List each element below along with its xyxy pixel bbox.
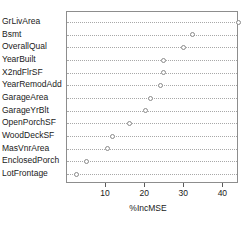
data-points (67, 12, 237, 182)
x-axis-title: %IncMSE (0, 203, 248, 213)
x-tick-label: 10 (100, 188, 109, 198)
data-point-lotfrontage (74, 172, 79, 177)
y-axis-label-masvnrarea: MasVnrArea (0, 143, 62, 152)
x-tick-label: 40 (218, 188, 227, 198)
y-axis-label-yearremodadd: YearRemodAdd (0, 80, 62, 89)
y-axis-label-garageyrblt: GarageYrBlt (0, 105, 62, 114)
data-point-grlivarea (236, 20, 241, 25)
y-axis-label-lotfrontage: LotFrontage (0, 169, 62, 178)
x-tick-mark (222, 183, 223, 187)
x-tick-mark (144, 183, 145, 187)
plot-area (66, 11, 238, 183)
x-tick-mark (183, 183, 184, 187)
x-tick-label: 30 (179, 188, 188, 198)
x-axis: 10203040 (66, 183, 238, 203)
y-axis-label-garagearea: GarageArea (0, 93, 62, 102)
variable-importance-plot: GrLivAreaBsmtOverallQualYearBuiltX2ndFlr… (0, 0, 248, 230)
data-point-x2ndflrsf (161, 70, 166, 75)
y-axis-label-wooddecksf: WoodDeckSF (0, 131, 62, 140)
data-point-enclosedporch (84, 159, 89, 164)
y-axis-label-bsmt: Bsmt (0, 29, 62, 38)
y-axis-label-x2ndflrsf: X2ndFlrSF (0, 67, 62, 76)
x-tick-label: 20 (139, 188, 148, 198)
y-axis-label-openporchsf: OpenPorchSF (0, 118, 62, 127)
data-point-garageyrblt (143, 108, 148, 113)
bottom-caption-clipped (0, 222, 248, 230)
data-point-masvnrarea (105, 146, 110, 151)
y-axis-label-enclosedporch: EnclosedPorch (0, 156, 62, 165)
data-point-bsmt (190, 32, 195, 37)
data-point-yearbuilt (161, 58, 166, 63)
data-point-wooddecksf (110, 134, 115, 139)
x-tick-mark (105, 183, 106, 187)
data-point-overallqual (181, 45, 186, 50)
data-point-garagearea (148, 96, 153, 101)
data-point-yearremodadd (158, 83, 163, 88)
y-axis-label-overallqual: OverallQual (0, 42, 62, 51)
data-point-openporchsf (127, 121, 132, 126)
y-axis-label-yearbuilt: YearBuilt (0, 55, 62, 64)
y-axis-label-grlivarea: GrLivArea (0, 17, 62, 26)
y-axis-category-labels: GrLivAreaBsmtOverallQualYearBuiltX2ndFlr… (0, 12, 64, 182)
